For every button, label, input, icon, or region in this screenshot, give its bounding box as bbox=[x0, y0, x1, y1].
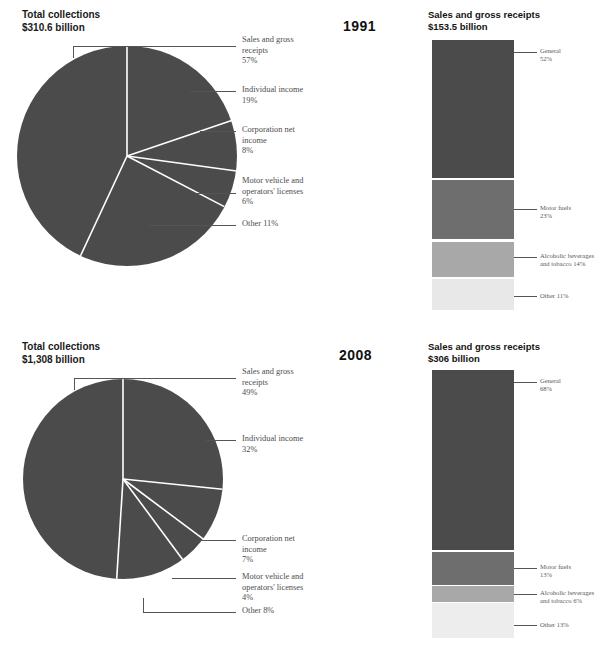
bar-segment-motorfuels-2008 bbox=[432, 552, 514, 585]
pie-label-corporation-2008: Corporation net income 7% bbox=[242, 534, 337, 566]
bar-heading-1991: Sales and gross receipts $153.5 billion bbox=[428, 9, 540, 33]
leader-line-motorvehicle-2008 bbox=[172, 578, 236, 579]
pie-svg-2008 bbox=[22, 378, 224, 580]
pie-heading-2008: Total collections $1,308 billion bbox=[22, 341, 100, 366]
pie-label-motorvehicle-1991: Motor vehicle and operators' licenses 6% bbox=[242, 176, 342, 208]
bar-segment-other-1991 bbox=[432, 279, 514, 310]
leader-line-alcohol-2008 bbox=[514, 594, 537, 595]
bar-label-alcohol-2008: Alcoholic beverages and tobacco 6% bbox=[540, 589, 612, 606]
bar-label-alcohol-1991: Alcoholic beverages and tobacco 14% bbox=[540, 252, 612, 269]
bar-label-motorfuels-1991: Motor fuels 23% bbox=[540, 204, 610, 221]
bar-heading-2008: Sales and gross receipts $306 billion bbox=[428, 341, 540, 365]
leader-line-other-2008 bbox=[514, 625, 537, 626]
year-label-1991: 1991 bbox=[343, 18, 376, 34]
pie-label-individual-1991: Individual income 19% bbox=[242, 85, 337, 106]
pie-title-2008: Total collections bbox=[22, 341, 100, 354]
leader-line-other-1991 bbox=[150, 225, 236, 226]
bar-label-other-2008: Other 13% bbox=[540, 621, 610, 629]
leader-line-individual-1991 bbox=[190, 91, 236, 92]
bar-total-1991: $153.5 billion bbox=[428, 21, 540, 33]
stacked-bar-2008 bbox=[432, 370, 514, 638]
leader-line-corporation-1991 bbox=[200, 131, 236, 132]
pie-chart-2008 bbox=[22, 378, 224, 580]
leader-line-general-1991 bbox=[514, 52, 537, 53]
leader-tick-sales-1991 bbox=[73, 46, 74, 58]
stacked-bar-1991 bbox=[432, 40, 514, 310]
leader-line-alcohol-1991 bbox=[514, 257, 537, 258]
leader-line-motorfuels-2008 bbox=[514, 568, 537, 569]
leader-tick-sales-2008 bbox=[74, 378, 75, 390]
bar-label-other-1991: Other 11% bbox=[540, 292, 610, 300]
bar-segment-general-2008 bbox=[432, 370, 514, 550]
leader-line-sales-1991 bbox=[73, 46, 236, 47]
pie-title-1991: Total collections bbox=[22, 9, 100, 22]
leader-line-general-2008 bbox=[514, 382, 537, 383]
bar-segment-general-1991 bbox=[432, 40, 514, 178]
pie-label-other-1991: Other 11% bbox=[242, 219, 342, 230]
bar-title-1991: Sales and gross receipts bbox=[428, 9, 540, 21]
leader-line-other-2008 bbox=[143, 612, 236, 613]
year-label-2008: 2008 bbox=[339, 347, 372, 363]
bar-label-general-2008: General 68% bbox=[540, 377, 610, 394]
pie-label-individual-2008: Individual income 32% bbox=[242, 434, 337, 455]
leader-line-individual-2008 bbox=[206, 440, 236, 441]
pie-label-other-2008: Other 8% bbox=[242, 606, 342, 617]
pie-total-2008: $1,308 billion bbox=[22, 354, 100, 367]
bar-label-general-1991: General 52% bbox=[540, 47, 610, 64]
pie-total-1991: $310.6 billion bbox=[22, 22, 100, 35]
pie-label-sales-2008: Sales and gross receipts 49% bbox=[242, 367, 337, 399]
leader-line-motorfuels-1991 bbox=[514, 209, 537, 210]
bar-segment-alcohol-1991 bbox=[432, 242, 514, 278]
bar-segment-alcohol-2008 bbox=[432, 586, 514, 602]
pie-label-sales-1991: Sales and gross receipts 57% bbox=[242, 35, 337, 67]
leader-line-other-1991 bbox=[514, 296, 537, 297]
bar-segment-other-2008 bbox=[432, 603, 514, 638]
pie-chart-1991 bbox=[16, 45, 238, 267]
leader-line-sales-2008 bbox=[74, 378, 236, 379]
bar-label-motorfuels-2008: Motor fuels 13% bbox=[540, 563, 610, 580]
bar-title-2008: Sales and gross receipts bbox=[428, 341, 540, 353]
pie-svg-1991 bbox=[16, 45, 238, 267]
pie-label-corporation-1991: Corporation net income 8% bbox=[242, 125, 337, 157]
pie-label-motorvehicle-2008: Motor vehicle and operators' licenses 4% bbox=[242, 572, 342, 604]
bar-total-2008: $306 billion bbox=[428, 353, 540, 365]
bar-segment-motorfuels-1991 bbox=[432, 180, 514, 239]
leader-line-corporation-2008 bbox=[200, 540, 236, 541]
leader-tick-other-2008 bbox=[143, 598, 144, 612]
pie-heading-1991: Total collections $310.6 billion bbox=[22, 9, 100, 34]
leader-line-motorvehicle-1991 bbox=[196, 193, 236, 194]
